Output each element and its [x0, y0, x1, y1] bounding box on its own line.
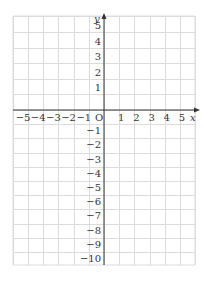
- x-tick-label: 5: [179, 112, 185, 123]
- tick-labels: −5−4−3−2−11234554321−1−2−3−4−5−6−7−8−9−1…: [16, 20, 186, 264]
- y-tick-label: −7: [86, 210, 101, 221]
- y-tick-label: −9: [86, 239, 101, 250]
- x-tick-label: −3: [46, 112, 61, 123]
- x-axis-label: x: [190, 112, 196, 123]
- y-tick-label: 3: [95, 51, 101, 62]
- y-tick-label: 2: [95, 67, 101, 78]
- y-tick-label: 1: [95, 82, 101, 93]
- coordinate-plane: −5−4−3−2−11234554321−1−2−3−4−5−6−7−8−9−1…: [0, 0, 203, 304]
- y-tick-label: −3: [86, 154, 101, 165]
- y-tick-label: −5: [86, 182, 101, 193]
- x-tick-label: 4: [164, 112, 170, 123]
- y-tick-label: −8: [86, 225, 101, 236]
- x-tick-label: −2: [61, 112, 76, 123]
- y-tick-label: −10: [80, 253, 101, 264]
- x-tick-label: 1: [118, 112, 124, 123]
- y-tick-label: −4: [86, 168, 101, 179]
- origin-label: O: [95, 112, 103, 123]
- y-axis-label: y: [93, 13, 100, 24]
- y-tick-label: −1: [86, 125, 101, 136]
- x-tick-label: −4: [31, 112, 46, 123]
- x-tick-label: −5: [16, 112, 31, 123]
- x-tick-label: −1: [76, 112, 91, 123]
- y-tick-label: −2: [86, 139, 101, 150]
- y-tick-label: −6: [86, 196, 101, 207]
- x-tick-label: 2: [133, 112, 139, 123]
- y-tick-label: 4: [95, 36, 101, 47]
- x-tick-label: 3: [148, 112, 154, 123]
